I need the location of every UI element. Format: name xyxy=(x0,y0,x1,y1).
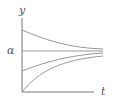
curve-above-equilibrium xyxy=(22,30,103,49)
alpha-tick-label: α xyxy=(7,45,14,56)
x-axis-label: t xyxy=(101,86,105,97)
curve-from-origin xyxy=(22,56,103,92)
curve-below-equilibrium xyxy=(22,53,103,71)
y-axis-label: y xyxy=(19,5,25,16)
